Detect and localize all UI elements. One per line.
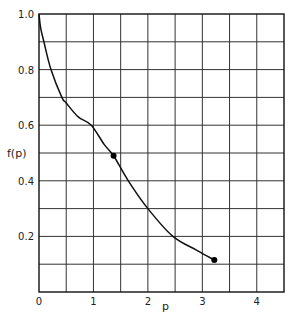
y-tick-label: 0.4 [18,176,34,187]
data-markers [111,153,218,263]
x-tick-label: 1 [90,296,96,307]
y-tick-label: 1.0 [18,9,34,20]
x-axis-ticks: 01234 [36,296,260,307]
grid-lines [39,14,284,292]
data-point-marker [111,153,117,159]
x-tick-label: 0 [36,296,42,307]
y-tick-label: 0.6 [18,120,34,131]
data-curve [39,14,214,260]
x-axis-label: p [162,300,169,313]
chart: 0.20.40.60.81.0 01234 f(p) p [0,0,294,321]
data-point-marker [211,257,217,263]
x-tick-label: 2 [145,296,151,307]
y-axis-label: f(p) [7,147,26,160]
x-tick-label: 4 [254,296,260,307]
y-tick-label: 0.8 [18,65,34,76]
y-axis-ticks: 0.20.40.60.81.0 [18,9,34,242]
x-tick-label: 3 [199,296,205,307]
y-tick-label: 0.2 [18,231,34,242]
